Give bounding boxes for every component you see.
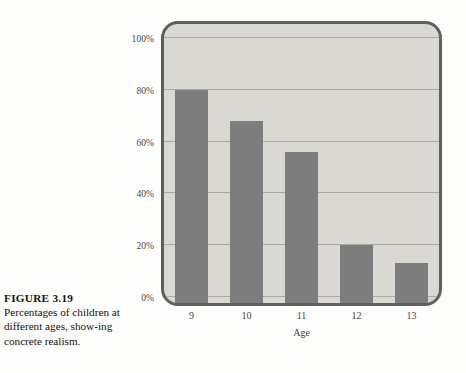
y-tick-label: 40% [136, 188, 154, 199]
y-tick-label: 80% [136, 84, 154, 95]
x-tick-label: 13 [407, 310, 417, 321]
figure-root: FIGURE 3.19 Percentages of children at d… [0, 0, 466, 373]
y-axis: 0%20%40%60%80%100% [118, 21, 158, 306]
x-tick-label: 11 [297, 310, 307, 321]
x-tick-label: 12 [352, 310, 362, 321]
y-tick-label: 60% [136, 136, 154, 147]
bar [285, 152, 318, 303]
chart-frame [161, 21, 442, 306]
x-axis: 910111213 [161, 310, 442, 326]
y-tick-label: 0% [141, 292, 154, 303]
x-axis-title: Age [161, 327, 442, 338]
plot-area [164, 24, 439, 303]
bar [340, 245, 373, 303]
gridline-100 [164, 37, 439, 38]
y-tick-label: 100% [132, 33, 154, 44]
bar [230, 121, 263, 303]
x-tick-label: 10 [242, 310, 252, 321]
figure-caption-text: Percentages of children at different age… [4, 305, 144, 348]
bar [395, 263, 428, 303]
x-tick-label: 9 [189, 310, 194, 321]
bar [175, 90, 208, 303]
y-tick-label: 20% [136, 240, 154, 251]
